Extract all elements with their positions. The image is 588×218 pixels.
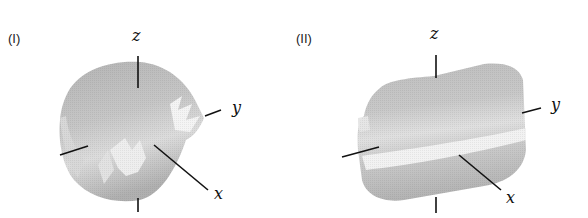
panel-label: (II): [296, 31, 312, 46]
y-axis-tick: [205, 110, 221, 116]
z-axis-label: z: [430, 24, 438, 43]
panel-label: (I): [8, 31, 20, 46]
x-axis-label: x: [214, 184, 223, 203]
y-axis-tick: [522, 108, 541, 113]
y-axis-label: y: [232, 98, 241, 117]
surface-plot-ii: [294, 0, 588, 218]
y-axis-label: y: [551, 95, 560, 114]
panel-i: (I) z y x: [0, 0, 294, 218]
z-axis-label: z: [132, 26, 140, 45]
x-axis-label: x: [506, 188, 515, 207]
panel-ii: (II) z y x: [294, 0, 588, 218]
surface-plot-i: [0, 0, 294, 218]
